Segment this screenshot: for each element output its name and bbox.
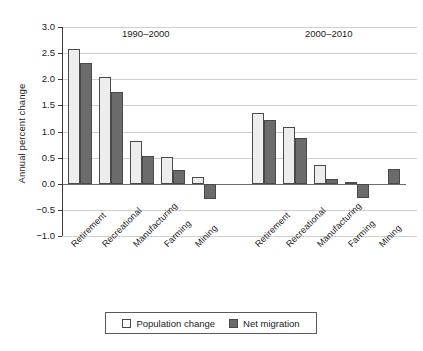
bar-2000-2010-recreational-net-migration (295, 138, 307, 184)
panel-heading-2: 2000–2010 (305, 28, 353, 39)
bar-2000-2010-manufacturing-net-migration (326, 179, 338, 184)
gridline (62, 210, 417, 211)
y-axis-tick (58, 210, 62, 211)
bar-1990-2000-recreational-net-migration (111, 92, 123, 184)
y-axis-tick (58, 53, 62, 54)
y-axis-tick-label: 0.5 (15, 153, 55, 163)
y-axis-tick-label: 2.5 (15, 48, 55, 58)
y-axis-tick-label: 1.5 (15, 100, 55, 110)
bar-2000-2010-retirement-net-migration (264, 120, 276, 184)
chart-legend: Population change Net migration (105, 312, 317, 334)
legend-label-population-change: Population change (136, 318, 215, 329)
zero-line (62, 184, 406, 185)
y-axis-tick-label: 3.0 (15, 22, 55, 32)
bar-1990-2000-retirement-population-change (68, 49, 80, 184)
legend-swatch-population-change-icon (122, 319, 131, 328)
y-axis-tick-label: 0.0 (15, 179, 55, 189)
y-axis-tick (58, 184, 62, 185)
y-axis-tick-label: −0.5 (15, 205, 55, 215)
bar-1990-2000-mining-net-migration (204, 184, 216, 200)
legend-item-population-change: Population change (122, 318, 215, 329)
legend-item-net-migration: Net migration (229, 318, 300, 329)
bar-1990-2000-mining-population-change (192, 177, 204, 183)
bar-1990-2000-retirement-net-migration (80, 63, 92, 184)
y-axis-tick (58, 27, 62, 28)
bar-2000-2010-retirement-population-change (252, 113, 264, 184)
y-axis-tick (58, 132, 62, 133)
bar-2000-2010-recreational-population-change (283, 127, 295, 183)
y-axis-tick-label: 1.0 (15, 127, 55, 137)
y-axis-spine (62, 27, 63, 236)
plot-area (62, 27, 417, 236)
y-axis-tick (58, 105, 62, 106)
bar-chart: Annual percent change 3.02.52.01.51.00.5… (0, 0, 423, 351)
legend-label-net-migration: Net migration (243, 318, 300, 329)
y-axis-tick-label: 2.0 (15, 74, 55, 84)
bar-2000-2010-manufacturing-population-change (314, 165, 326, 183)
bar-1990-2000-farming-net-migration (173, 170, 185, 184)
legend-swatch-net-migration-icon (229, 319, 238, 328)
y-axis-tick (58, 79, 62, 80)
gridline (62, 27, 417, 28)
panel-heading-1: 1990–2000 (122, 28, 170, 39)
bar-2000-2010-farming-population-change (345, 182, 357, 184)
bar-1990-2000-manufacturing-population-change (130, 141, 142, 183)
gridline (62, 79, 417, 80)
y-axis-tick (58, 158, 62, 159)
bar-1990-2000-manufacturing-net-migration (142, 156, 154, 184)
bar-2000-2010-mining-net-migration (388, 169, 400, 184)
gridline (62, 53, 417, 54)
y-axis-tick-label: −1.0 (15, 231, 55, 241)
bar-1990-2000-recreational-population-change (99, 77, 111, 184)
bar-2000-2010-farming-net-migration (357, 184, 369, 199)
bar-1990-2000-farming-population-change (161, 157, 173, 184)
y-axis-tick (58, 236, 62, 237)
